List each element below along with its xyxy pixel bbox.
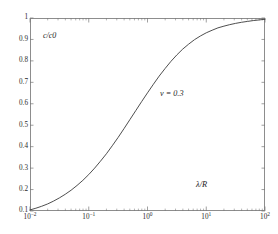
x-tick-label: 10−2: [24, 214, 37, 222]
x-tick-label: 101: [201, 214, 211, 222]
x-axis-caption: λ/R: [196, 181, 207, 189]
x-axis-tick-labels: 10−210−1100101102: [0, 0, 278, 234]
x-tick-label: 100: [143, 214, 153, 222]
figure-canvas: 0.10.20.30.40.50.60.70.80.91 10−210−1100…: [0, 0, 278, 234]
y-axis-caption: c/c0: [43, 32, 56, 40]
parameter-annotation: ν = 0.3: [160, 90, 184, 98]
x-tick-label: 10−1: [82, 214, 95, 222]
x-tick-label: 102: [260, 214, 270, 222]
